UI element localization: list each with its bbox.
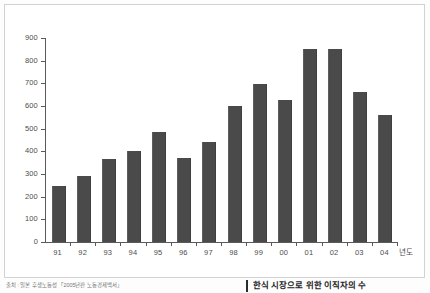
- x-axis-label: 93: [95, 249, 120, 257]
- y-axis-tick: [41, 174, 46, 175]
- bar: [303, 49, 317, 242]
- x-axis-label: 03: [347, 249, 372, 257]
- x-axis-tick: [322, 242, 323, 246]
- x-axis-tick: [246, 242, 247, 246]
- y-axis-tick: [41, 197, 46, 198]
- x-axis-label: 96: [171, 249, 196, 257]
- y-axis-label: 500: [5, 125, 38, 133]
- figure-caption: 한식 시장으로 위한 이직자의 수: [253, 280, 430, 290]
- y-axis-label: 200: [5, 193, 38, 201]
- x-axis-label: 92: [70, 249, 95, 257]
- x-axis-tick: [221, 242, 222, 246]
- x-axis-label: 02: [322, 249, 347, 257]
- x-axis-label: 97: [196, 249, 221, 257]
- y-axis-label: 700: [5, 79, 38, 87]
- y-axis-tick: [41, 219, 46, 220]
- bar: [328, 49, 342, 242]
- x-axis-label: 91: [45, 249, 70, 257]
- x-axis-tick: [271, 242, 272, 246]
- x-axis-tick: [70, 242, 71, 246]
- y-axis-label: 900: [5, 34, 38, 42]
- x-axis-tick: [196, 242, 197, 246]
- y-axis-tick: [41, 38, 46, 39]
- x-axis-tick: [146, 242, 147, 246]
- x-axis-tick: [397, 242, 398, 246]
- bar-chart: 0100200300400500600700800900 91929394959…: [5, 5, 426, 279]
- y-axis-tick: [41, 242, 46, 243]
- x-axis-tick: [296, 242, 297, 246]
- y-axis-label: 400: [5, 147, 38, 155]
- bar: [378, 115, 392, 242]
- source-note: 출처 : 일본 후생노동성 「2005년판 노동경제백서」: [6, 282, 221, 288]
- x-axis-tick: [95, 242, 96, 246]
- x-axis-label: 01: [296, 249, 321, 257]
- y-axis-label: 100: [5, 215, 38, 223]
- bar: [77, 176, 91, 242]
- y-axis-tick: [41, 61, 46, 62]
- x-axis-label: 99: [246, 249, 271, 257]
- x-axis-label: 94: [120, 249, 145, 257]
- bar: [52, 186, 66, 242]
- y-axis-tick: [41, 129, 46, 130]
- x-axis-title: 년도: [399, 249, 413, 257]
- y-axis-tick: [41, 83, 46, 84]
- x-axis-label: 04: [372, 249, 397, 257]
- y-axis-label: 0: [5, 238, 38, 246]
- bar: [202, 142, 216, 242]
- y-axis-label: 300: [5, 170, 38, 178]
- bar: [278, 100, 292, 242]
- bar: [177, 158, 191, 242]
- y-axis-tick: [41, 106, 46, 107]
- bar: [253, 84, 267, 242]
- bar: [102, 159, 116, 242]
- bar: [228, 106, 242, 242]
- x-axis-tick: [171, 242, 172, 246]
- bar: [152, 132, 166, 242]
- bar: [127, 151, 141, 242]
- x-axis-label: 98: [221, 249, 246, 257]
- x-axis-label: 95: [146, 249, 171, 257]
- screenshot-root: 0100200300400500600700800900 91929394959…: [0, 0, 430, 293]
- y-axis-label: 600: [5, 102, 38, 110]
- x-axis-tick: [347, 242, 348, 246]
- caption-rule: [246, 280, 248, 292]
- y-axis-label: 800: [5, 57, 38, 65]
- y-axis-tick: [41, 151, 46, 152]
- x-axis-tick: [120, 242, 121, 246]
- chart-frame: 0100200300400500600700800900 91929394959…: [4, 4, 425, 278]
- bar: [353, 92, 367, 242]
- x-axis-label: 00: [271, 249, 296, 257]
- x-axis-tick: [372, 242, 373, 246]
- y-axis-line: [45, 38, 46, 243]
